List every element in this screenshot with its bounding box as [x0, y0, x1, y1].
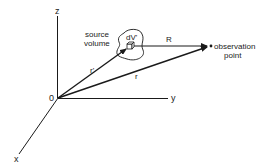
r-prime-label: r'	[90, 66, 95, 75]
source-volume-label-line1: source	[85, 30, 110, 39]
observation-label-line2: point	[224, 51, 242, 60]
observation-point-dot	[210, 45, 213, 48]
dv-label: dV'	[126, 33, 138, 42]
x-axis	[19, 98, 58, 154]
r-label: r	[135, 72, 138, 81]
y-axis-label: y	[171, 93, 176, 103]
coordinate-diagram: z y x 0 source volume dV' r' r R observa…	[0, 0, 271, 168]
volume-element-cube-icon	[127, 42, 134, 49]
observation-label-line1: observation	[214, 42, 255, 51]
z-axis-label: z	[55, 6, 60, 16]
R-label: R	[166, 35, 172, 44]
x-axis-label: x	[14, 154, 19, 164]
source-volume-label-line2: volume	[84, 39, 110, 48]
origin-label: 0	[49, 93, 54, 103]
r-vector	[58, 47, 207, 98]
